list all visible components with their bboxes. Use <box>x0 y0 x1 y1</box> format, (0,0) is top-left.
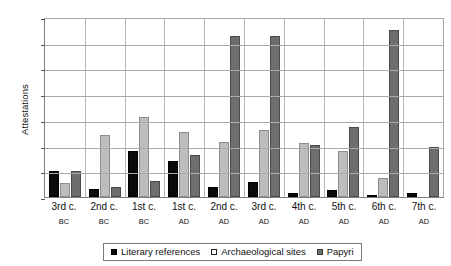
x-axis-label-century: 6th c. <box>372 201 396 212</box>
bar-literary-references <box>49 171 59 197</box>
gridline <box>45 173 443 174</box>
x-axis-label-era: AD <box>164 217 204 228</box>
bar-papyri <box>111 187 121 197</box>
legend-label: Papyri <box>327 246 354 257</box>
bar-papyri <box>429 147 439 197</box>
y-axis-title: Attestations <box>19 40 30 180</box>
bar-archaeological-sites <box>179 132 189 197</box>
x-axis-label-era: AD <box>284 217 324 228</box>
bar-literary-references <box>248 182 258 197</box>
x-axis-label: 7th c.AD <box>404 200 444 234</box>
bar-archaeological-sites <box>259 130 269 197</box>
bar-archaeological-sites <box>139 117 149 197</box>
x-axis-label-era: BC <box>84 217 124 228</box>
x-axis-label: 1st c.AD <box>164 200 204 234</box>
x-axis-label: 1st c.BC <box>124 200 164 234</box>
gridline <box>45 148 443 149</box>
bar-literary-references <box>327 190 337 197</box>
x-axis-label-century: 5th c. <box>332 201 356 212</box>
x-axis-label: 2nd c.AD <box>204 200 244 234</box>
attestations-bar-chart: Attestations 706050403020100 3rd c.BC2nd… <box>0 0 451 266</box>
y-axis-tick-mark <box>41 96 45 97</box>
bar-literary-references <box>168 161 178 197</box>
x-axis-label-century: 3rd c. <box>251 201 276 212</box>
x-axis-label-era: BC <box>124 217 164 228</box>
bar-literary-references <box>288 193 298 197</box>
y-axis-tick-mark <box>41 45 45 46</box>
legend-swatch-icon <box>211 249 217 255</box>
legend-swatch-icon <box>317 249 323 255</box>
x-axis-labels: 3rd c.BC2nd c.BC1st c.BC1st c.AD2nd c.AD… <box>44 200 444 234</box>
x-axis-label-century: 1st c. <box>172 201 196 212</box>
gridline <box>45 122 443 123</box>
bar-papyri <box>349 127 359 197</box>
y-axis-tick-mark <box>41 148 45 149</box>
gridline <box>45 96 443 97</box>
bar-archaeological-sites <box>60 183 70 197</box>
x-axis-label-era: AD <box>244 217 284 228</box>
x-axis-label-era: AD <box>204 217 244 228</box>
x-axis-label-century: 7th c. <box>412 201 436 212</box>
x-axis-label: 4th c.AD <box>284 200 324 234</box>
x-axis-label: 3rd c.AD <box>244 200 284 234</box>
bar-literary-references <box>367 195 377 197</box>
bar-literary-references <box>89 189 99 197</box>
legend-item-archaeological-sites: Archaeological sites <box>211 246 306 257</box>
bar-papyri <box>389 30 399 197</box>
x-axis-label: 3rd c.BC <box>44 200 84 234</box>
bar-papyri <box>150 181 160 197</box>
bar-papyri <box>310 145 320 197</box>
x-axis-label: 2nd c.BC <box>84 200 124 234</box>
y-axis-tick-mark <box>41 70 45 71</box>
legend-item-literary-references: Literary references <box>111 246 200 257</box>
x-axis-label-era: BC <box>44 217 84 228</box>
x-axis-label: 6th c.AD <box>364 200 404 234</box>
bar-archaeological-sites <box>219 142 229 197</box>
y-axis-tick-mark <box>41 19 45 20</box>
y-axis-tick-mark <box>41 173 45 174</box>
x-axis-label-century: 3rd c. <box>51 201 76 212</box>
bar-archaeological-sites <box>100 135 110 197</box>
legend-swatch-icon <box>111 249 117 255</box>
bar-archaeological-sites <box>299 143 309 197</box>
x-axis-label-century: 2nd c. <box>210 201 237 212</box>
legend-label: Literary references <box>121 246 200 257</box>
bar-archaeological-sites <box>378 178 388 197</box>
x-axis-label-era: AD <box>404 217 444 228</box>
bar-papyri <box>190 155 200 197</box>
y-axis-tick-mark <box>41 122 45 123</box>
x-axis-label-century: 4th c. <box>292 201 316 212</box>
gridline <box>45 45 443 46</box>
bar-literary-references <box>208 187 218 197</box>
chart-legend: Literary references Archaeological sites… <box>103 243 362 261</box>
legend-item-papyri: Papyri <box>317 246 354 257</box>
gridline <box>45 70 443 71</box>
x-axis-label-century: 2nd c. <box>90 201 117 212</box>
plot-area: 706050403020100 <box>44 18 444 198</box>
x-axis-label-era: AD <box>324 217 364 228</box>
bar-literary-references <box>407 193 417 197</box>
x-axis-label-era: AD <box>364 217 404 228</box>
bar-papyri <box>71 171 81 197</box>
x-axis-label-century: 1st c. <box>132 201 156 212</box>
x-axis-label: 5th c.AD <box>324 200 364 234</box>
legend-label: Archaeological sites <box>221 246 306 257</box>
